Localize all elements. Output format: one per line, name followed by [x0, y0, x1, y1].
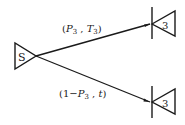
upper-edge-label: (P3 , T3) [62, 23, 102, 36]
lower-arrowhead-icon [144, 99, 151, 103]
source-node-label: S [18, 51, 26, 64]
decision-diagram: S 3 3 (P3 , T3) (1−P3 , t) [0, 0, 185, 125]
lower-edge-label: (1−P3 , t) [59, 88, 106, 101]
lower-terminal-node: 3 [152, 86, 175, 118]
upper-terminal-label: 3 [162, 20, 168, 31]
upper-terminal-node: 3 [152, 7, 175, 39]
lower-terminal-label: 3 [162, 98, 168, 109]
source-node: S [15, 43, 36, 69]
upper-arrowhead-icon [144, 24, 150, 27]
